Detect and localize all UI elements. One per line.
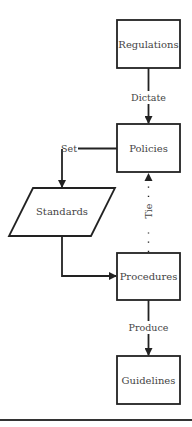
hierarchy-flowchart: Regulations Dictate Policies Set Standar…	[0, 0, 192, 427]
edge-dictate: Dictate	[131, 68, 166, 123]
edge-tie: Tie	[143, 173, 154, 252]
edge-standards-procedures	[62, 236, 116, 276]
edge-dictate-label: Dictate	[131, 92, 166, 103]
node-standards: Standards	[9, 188, 115, 236]
node-policies: Policies	[117, 124, 180, 172]
edge-set: Set	[61, 143, 117, 188]
node-guidelines-label: Guidelines	[122, 375, 176, 386]
node-procedures: Procedures	[117, 253, 180, 300]
node-standards-label: Standards	[36, 206, 88, 217]
node-guidelines: Guidelines	[117, 356, 180, 404]
node-regulations-label: Regulations	[118, 39, 178, 50]
edge-set-label: Set	[61, 143, 77, 154]
edge-produce: Produce	[129, 300, 169, 355]
node-regulations: Regulations	[117, 20, 180, 68]
node-policies-label: Policies	[129, 143, 168, 154]
edge-produce-label: Produce	[129, 322, 169, 333]
edge-tie-label: Tie	[143, 203, 154, 218]
node-procedures-label: Procedures	[120, 271, 178, 282]
